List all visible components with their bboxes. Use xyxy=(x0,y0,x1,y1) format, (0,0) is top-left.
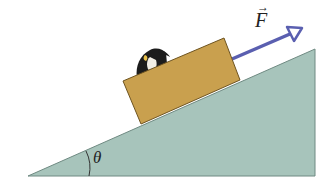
angle-label: θ xyxy=(93,148,101,168)
force-arrow-shaft xyxy=(232,34,290,59)
diagram-canvas xyxy=(0,0,336,185)
force-arrowhead-icon xyxy=(287,27,302,41)
force-label: → F xyxy=(255,9,267,32)
vector-arrow-marker: → xyxy=(257,0,269,15)
